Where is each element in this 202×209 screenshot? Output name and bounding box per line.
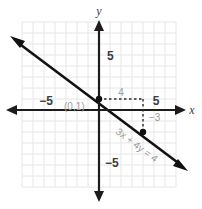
- y-axis-label: y: [95, 4, 102, 18]
- coordinate-graph-figure: −5 5 5 −5 x y (0,1) 4 −3 3x + 4y = 4: [0, 0, 202, 209]
- run-label: 4: [118, 87, 124, 98]
- rise-label: −3: [149, 112, 161, 123]
- y-tick-label-positive-5: 5: [107, 49, 114, 63]
- graph-canvas: −5 5 5 −5 x y (0,1) 4 −3 3x + 4y = 4: [0, 0, 202, 209]
- point-y-intercept: [96, 96, 102, 102]
- point-second: [140, 129, 146, 135]
- x-tick-label-negative-5: −5: [39, 94, 53, 108]
- y-intercept-point-label: (0,1): [64, 101, 85, 112]
- x-tick-label-positive-5: 5: [153, 94, 160, 108]
- x-axis-label: x: [188, 103, 195, 117]
- y-tick-label-negative-5: −5: [105, 156, 119, 170]
